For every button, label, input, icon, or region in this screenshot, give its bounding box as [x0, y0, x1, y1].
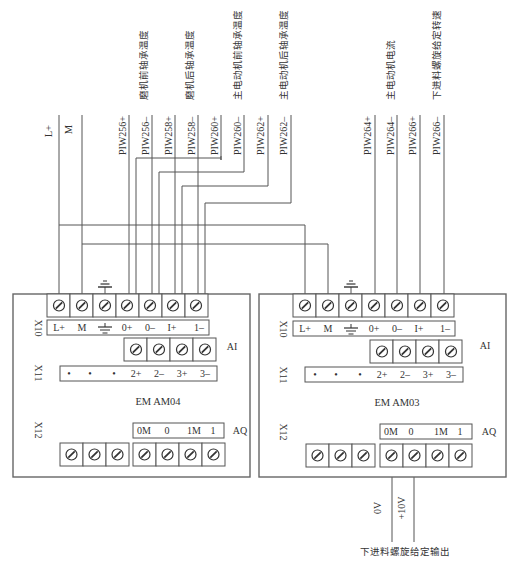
screw-terminal	[358, 450, 369, 461]
terminal-label: 0–	[145, 322, 156, 333]
screw-terminal	[145, 300, 156, 311]
aq-output: 0V +10V 下进料螺旋给定输出	[360, 496, 450, 557]
terminal-label: L+	[53, 322, 65, 333]
signal-label-piw262m: PIW262–	[278, 116, 289, 155]
terminal-label: 1–	[440, 323, 451, 334]
terminal-label: 3–	[446, 369, 457, 380]
output-0v-label: 0V	[372, 501, 383, 514]
screw-terminal	[139, 449, 150, 460]
module-name: EM AM03	[374, 397, 419, 408]
x12-label: X12	[278, 423, 289, 440]
screw-terminal	[122, 300, 133, 311]
screw-terminal	[438, 300, 449, 311]
terminal-label: 0+	[369, 323, 380, 334]
terminal-label: 1	[211, 425, 216, 436]
screw-terminal	[77, 300, 88, 311]
x10-label: X10	[33, 319, 44, 336]
screw-terminal	[191, 300, 202, 311]
terminal-label: 2–	[154, 368, 165, 379]
terminal-label: •	[112, 368, 116, 379]
aq-label: AQ	[482, 426, 497, 437]
x11-screw-row	[370, 340, 462, 363]
desc-main-motor-front-bearing: 主电动机前轴承温度	[232, 10, 243, 100]
terminal-label: M	[78, 322, 87, 333]
desc-grinder-rear-bearing: 磨机后轴承温度	[184, 30, 195, 100]
terminal-label: 3+	[423, 369, 434, 380]
screw-terminal	[409, 450, 420, 461]
terminal-label: 0+	[122, 322, 133, 333]
screw-terminal	[312, 450, 323, 461]
screw-terminal	[369, 300, 380, 311]
screw-terminal	[392, 300, 403, 311]
screw-terminal	[415, 300, 426, 311]
screw-terminal	[400, 346, 411, 357]
screw-terminal	[455, 450, 466, 461]
terminal-label: 3+	[177, 368, 188, 379]
screw-terminal	[346, 300, 357, 311]
signal-label-piw258p: PIW258+	[163, 116, 174, 155]
signal-label-piw262p: PIW262+	[255, 116, 266, 155]
x12-label: X12	[33, 421, 44, 438]
signal-label-piw256p: PIW256+	[117, 116, 128, 155]
ground-icon-left	[98, 281, 112, 294]
desc-grinder-front-bearing: 磨机前轴承温度	[138, 30, 149, 100]
terminal-label: 0–	[392, 323, 403, 334]
screw-terminal	[423, 346, 434, 357]
terminal-label: •	[88, 368, 92, 379]
signal-label-piw260p: PIW260+	[209, 116, 220, 155]
terminal-label: 1–	[194, 322, 205, 333]
signal-label-piw264m: PIW264–	[385, 116, 396, 155]
terminal-label: 1M	[187, 425, 201, 436]
ai-label: AI	[480, 340, 491, 351]
signal-label-piw266m: PIW266–	[431, 116, 442, 155]
x12-screw-row	[60, 443, 225, 466]
screw-terminal	[335, 450, 346, 461]
terminal-label: 2+	[131, 368, 142, 379]
terminal-label: •	[358, 369, 362, 380]
signal-label-m: M	[63, 124, 74, 134]
terminal-label: 1M	[434, 426, 448, 437]
screw-terminal	[208, 449, 219, 460]
screw-terminal	[300, 300, 311, 311]
desc-main-motor-rear-bearing: 主电动机后轴承温度	[278, 10, 289, 100]
signal-label-piw256m: PIW256–	[140, 116, 151, 155]
wiring-diagram: L+ M PIW256+ PIW256– PIW258+ PIW258– PIW…	[0, 0, 515, 570]
terminal-label: •	[67, 368, 71, 379]
screw-terminal	[432, 450, 443, 461]
module-em-am03: X10 L+ M 0+ 0– I+ 1– AI X11 • • • 2+	[259, 294, 506, 477]
desc-feed-screw-speed: 下进料螺旋给定转速	[431, 10, 442, 100]
x11-label: X11	[278, 367, 289, 384]
ground-icon-right	[344, 281, 358, 294]
screw-terminal	[112, 449, 123, 460]
x10-screw-row	[47, 294, 208, 317]
terminal-label: 2–	[400, 369, 411, 380]
screw-terminal	[168, 300, 179, 311]
signal-labels: L+ M PIW256+ PIW256– PIW258+ PIW258– PIW…	[43, 10, 442, 155]
terminal-label: 0M	[384, 426, 398, 437]
screw-terminal	[89, 449, 100, 460]
signal-label-piw260m: PIW260–	[232, 116, 243, 155]
screw-terminal	[185, 449, 196, 460]
signal-label-piw266p: PIW266+	[407, 116, 418, 155]
terminal-label: •	[334, 369, 338, 380]
terminal-label: 0	[165, 425, 170, 436]
output-caption: 下进料螺旋给定输出	[360, 546, 450, 557]
output-10v-label: +10V	[396, 496, 407, 520]
module-em-am04: X10 L+ M 0+ 0– I+ 1– AI X11 • • •	[13, 294, 250, 477]
screw-terminal	[200, 344, 211, 355]
x11-screw-row	[124, 338, 216, 361]
screw-terminal	[54, 300, 65, 311]
x10-label: X10	[278, 320, 289, 337]
module-name: EM AM04	[135, 396, 181, 407]
terminal-label: 0M	[137, 425, 151, 436]
terminal-label: M	[324, 323, 333, 334]
screw-terminal	[154, 344, 165, 355]
terminal-label: 3–	[200, 368, 211, 379]
terminal-label: •	[313, 369, 317, 380]
screw-terminal	[177, 344, 188, 355]
screw-terminal	[131, 344, 142, 355]
signal-label-piw264p: PIW264+	[362, 116, 373, 155]
terminal-label: 0	[409, 426, 414, 437]
x11-label: X11	[33, 365, 44, 382]
signal-label-piw258m: PIW258–	[186, 116, 197, 155]
